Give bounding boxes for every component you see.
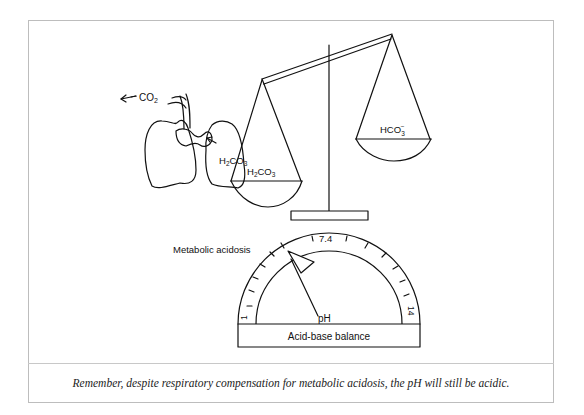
co2-label: CO2 [139, 92, 158, 104]
gauge-title: Metabolic acidosis [173, 244, 251, 255]
gauge-max-label: 14 [406, 306, 416, 316]
gauge-min-label: 1 [239, 315, 249, 320]
lung-h2co3-label: H2CO3 [219, 155, 248, 167]
gauge-ticks [247, 236, 409, 306]
ph-gauge [238, 233, 420, 347]
gauge-base-label: Acid-base balance [288, 331, 371, 342]
right-pan-hco3-label: HCO3− [380, 123, 405, 137]
left-pan-h2co3-label: H2CO3 [247, 166, 276, 178]
ph-label: pH [318, 313, 331, 324]
lungs-illustration [121, 94, 245, 188]
acid-base-diagram: CO2 H2CO3 H2CO3 HCO3− Metabolic acidosis… [0, 0, 584, 415]
figure-caption: Remember, despite respiratory compensati… [28, 364, 554, 402]
gauge-mid-label: 7.4 [319, 233, 332, 244]
